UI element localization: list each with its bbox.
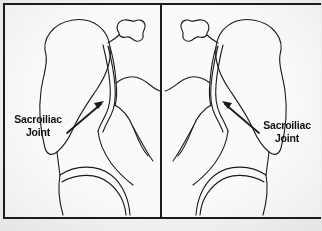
sacrum-body-descending	[193, 131, 228, 185]
sacroiliac-drawing-left	[5, 5, 160, 218]
ilium-body-descending	[266, 152, 269, 175]
greater-sciatic-notch	[115, 105, 148, 156]
vertebral-spinous-process	[181, 20, 209, 41]
sacroiliac-joint-line-lateral	[216, 45, 228, 131]
panel-right	[163, 5, 321, 218]
vertebral-body-link	[207, 35, 218, 43]
pelvic-brim-contour	[173, 127, 193, 161]
label-sacroiliac-joint-right: Sacroiliac Joint	[258, 119, 316, 144]
sacroiliac-drawing-right	[163, 5, 321, 218]
sacroiliac-joint-line-lateral	[98, 45, 110, 131]
label-left-line2: Joint	[8, 126, 68, 139]
iliac-crest-right	[116, 77, 160, 91]
obturator-arch-inner	[62, 175, 126, 215]
ilium-body-descending	[57, 152, 60, 175]
ischial-ramus-left	[263, 175, 267, 215]
panel-left	[5, 5, 160, 218]
obturator-arch-inner	[200, 175, 264, 215]
obturator-arch-outer	[60, 167, 130, 215]
pelvic-brim-contour	[133, 127, 153, 161]
obturator-arch-outer	[196, 167, 266, 215]
greater-sciatic-notch	[178, 105, 211, 156]
vertebral-spinous-process	[117, 20, 145, 41]
label-left-line1: Sacroiliac	[8, 113, 68, 126]
sacrum-body-descending	[98, 131, 133, 185]
ischial-ramus-left	[59, 175, 63, 215]
panel-divider	[160, 4, 162, 219]
iliac-crest-right	[165, 77, 210, 91]
label-right-line2: Joint	[258, 132, 316, 145]
label-sacroiliac-joint-left: Sacroiliac Joint	[8, 113, 68, 138]
vertebral-body-link	[108, 35, 119, 43]
label-right-line1: Sacroiliac	[258, 119, 316, 132]
figure-canvas: Sacroiliac Joint Sacroiliac Joint	[0, 0, 322, 231]
